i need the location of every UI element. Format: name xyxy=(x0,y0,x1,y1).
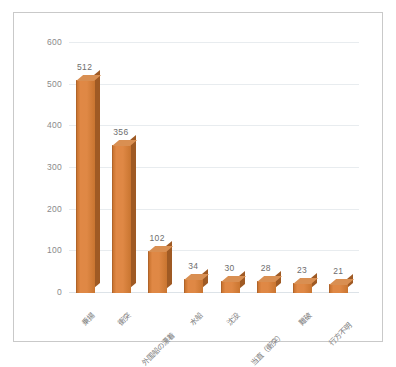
bar[interactable]: 102 xyxy=(148,251,166,294)
x-axis-category-label: 当直（衝突） xyxy=(247,330,284,367)
bar-value-label: 30 xyxy=(225,263,235,273)
y-axis-tick-label: 600 xyxy=(47,37,62,47)
bar[interactable]: 34 xyxy=(184,279,202,293)
bar-front-face xyxy=(184,279,203,293)
x-axis-category-label: 難破 xyxy=(295,310,313,328)
bar-front-face xyxy=(148,251,167,294)
x-axis-category-label: 外国船の漂着 xyxy=(139,330,176,367)
x-axis-category-label: 衝突 xyxy=(114,310,132,328)
bar-front-face xyxy=(221,281,240,294)
y-axis-tick-label: 200 xyxy=(47,204,62,214)
chart-frame: 0100200300400500600512乗揚356衝突102外国船の漂着34… xyxy=(13,12,383,342)
bar-value-label: 23 xyxy=(297,265,307,275)
bar-value-label: 28 xyxy=(261,263,271,273)
bar-front-face xyxy=(257,281,276,293)
bar-front-face xyxy=(293,283,312,293)
x-axis-category-label: 沈没 xyxy=(223,310,241,328)
bar-value-label: 21 xyxy=(333,266,343,276)
x-axis-category-label: 水船 xyxy=(187,310,205,328)
bar-front-face xyxy=(76,80,95,293)
bar[interactable]: 356 xyxy=(112,145,130,293)
bar-value-label: 102 xyxy=(150,233,165,243)
gridline: 600 xyxy=(69,42,359,43)
y-axis-tick-label: 100 xyxy=(47,245,62,255)
plot-area: 0100200300400500600512乗揚356衝突102外国船の漂着34… xyxy=(69,43,359,293)
x-axis-category-label: 乗揚 xyxy=(78,310,96,328)
gridline: 500 xyxy=(69,84,359,85)
bar[interactable]: 28 xyxy=(257,281,275,293)
bar-front-face xyxy=(329,284,348,293)
bar-front-face xyxy=(112,145,131,293)
y-axis-tick-label: 0 xyxy=(57,287,62,297)
bar[interactable]: 23 xyxy=(293,283,311,293)
bar-value-label: 356 xyxy=(113,127,128,137)
bar-value-label: 34 xyxy=(188,261,198,271)
y-axis-tick-label: 500 xyxy=(47,79,62,89)
y-axis-tick-label: 300 xyxy=(47,162,62,172)
bar-value-label: 512 xyxy=(77,62,92,72)
bar[interactable]: 21 xyxy=(329,284,347,293)
bar[interactable]: 30 xyxy=(221,281,239,294)
bar[interactable]: 512 xyxy=(76,80,94,293)
y-axis-tick-label: 400 xyxy=(47,120,62,130)
x-axis-category-label: 行方不明 xyxy=(326,320,354,348)
